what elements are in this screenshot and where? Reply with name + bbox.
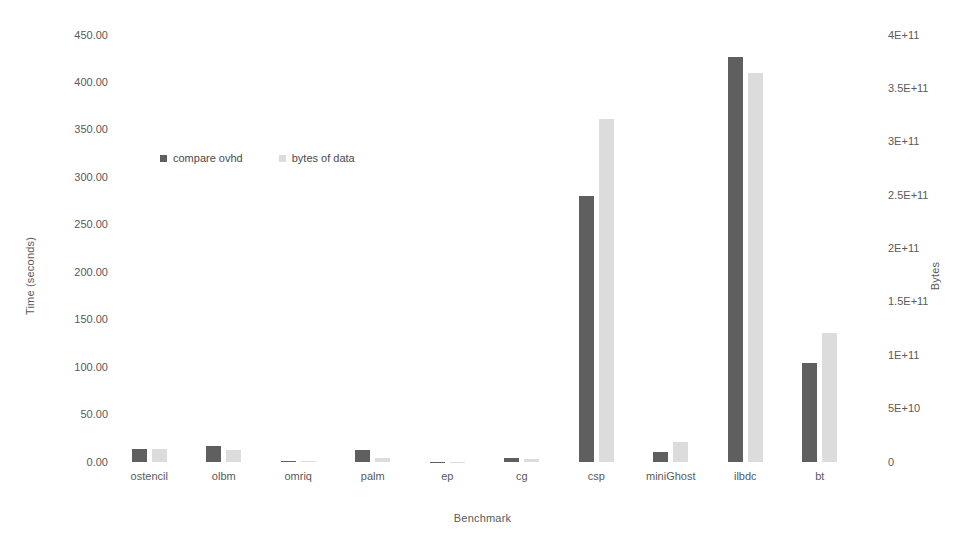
plot-area bbox=[112, 35, 857, 462]
bar-bytes-of-data[interactable] bbox=[226, 450, 241, 462]
bar-group bbox=[410, 35, 485, 462]
bar-bytes-of-data[interactable] bbox=[673, 442, 688, 462]
x-axis-categories: ostencilolbmomriqpalmepcgcspminiGhostilb… bbox=[112, 470, 857, 482]
x-axis-tick-label: olbm bbox=[187, 470, 262, 482]
y-axis-left-tick-label: 450.00 bbox=[74, 30, 108, 41]
bar-compare-ovhd[interactable] bbox=[132, 449, 147, 462]
y-axis-right-tick-label: 5E+10 bbox=[888, 403, 920, 414]
bar-compare-ovhd[interactable] bbox=[579, 196, 594, 462]
bar-compare-ovhd[interactable] bbox=[355, 450, 370, 462]
x-axis-tick-label: ep bbox=[410, 470, 485, 482]
bar-compare-ovhd[interactable] bbox=[281, 461, 296, 462]
bar-group bbox=[112, 35, 187, 462]
bar-group bbox=[485, 35, 560, 462]
y-axis-right-ticks: 05E+101E+111.5E+112E+112.5E+113E+113.5E+… bbox=[888, 0, 948, 552]
legend-swatch-icon bbox=[279, 155, 286, 162]
bar-bytes-of-data[interactable] bbox=[822, 333, 837, 462]
bar-chart: Time (seconds) Bytes Benchmark 0.0050.00… bbox=[0, 0, 965, 552]
y-axis-right-tick-label: 3.5E+11 bbox=[888, 83, 928, 94]
legend-item-label: bytes of data bbox=[292, 152, 355, 164]
legend-item-compare-ovhd[interactable]: compare ovhd bbox=[160, 152, 243, 164]
legend-item-label: compare ovhd bbox=[173, 152, 243, 164]
y-axis-left-tick-label: 400.00 bbox=[74, 77, 108, 88]
x-axis-tick-label: ostencil bbox=[112, 470, 187, 482]
y-axis-left-title: Time (seconds) bbox=[24, 216, 36, 336]
bar-group bbox=[634, 35, 709, 462]
bar-compare-ovhd[interactable] bbox=[206, 446, 221, 462]
y-axis-left-tick-label: 300.00 bbox=[74, 172, 108, 183]
x-axis-tick-label: ilbdc bbox=[708, 470, 783, 482]
bar-compare-ovhd[interactable] bbox=[802, 363, 817, 462]
y-axis-left-tick-label: 0.00 bbox=[87, 457, 108, 468]
bar-bytes-of-data[interactable] bbox=[301, 461, 316, 462]
bar-compare-ovhd[interactable] bbox=[504, 458, 519, 462]
bar-group bbox=[783, 35, 858, 462]
y-axis-right-tick-label: 3E+11 bbox=[888, 136, 919, 147]
y-axis-left-ticks: 0.0050.00100.00150.00200.00250.00300.003… bbox=[48, 0, 108, 552]
y-axis-left-tick-label: 350.00 bbox=[74, 124, 108, 135]
y-axis-left-tick-label: 150.00 bbox=[74, 314, 108, 325]
legend-item-bytes-of-data[interactable]: bytes of data bbox=[279, 152, 355, 164]
legend-swatch-icon bbox=[160, 155, 167, 162]
x-axis-title: Benchmark bbox=[0, 512, 965, 524]
bar-compare-ovhd[interactable] bbox=[728, 57, 743, 462]
bar-compare-ovhd[interactable] bbox=[653, 452, 668, 462]
x-axis-tick-label: palm bbox=[336, 470, 411, 482]
x-axis-tick-label: csp bbox=[559, 470, 634, 482]
bar-group bbox=[559, 35, 634, 462]
bar-bytes-of-data[interactable] bbox=[152, 449, 167, 462]
y-axis-left-tick-label: 200.00 bbox=[74, 267, 108, 278]
y-axis-left-tick-label: 50.00 bbox=[80, 409, 108, 420]
y-axis-left-tick-label: 100.00 bbox=[74, 362, 108, 373]
y-axis-right-tick-label: 1E+11 bbox=[888, 350, 919, 361]
y-axis-right-tick-label: 2.5E+11 bbox=[888, 190, 928, 201]
chart-legend: compare ovhd bytes of data bbox=[160, 152, 355, 164]
y-axis-right-tick-label: 2E+11 bbox=[888, 243, 919, 254]
bar-group bbox=[261, 35, 336, 462]
y-axis-right-tick-label: 4E+11 bbox=[888, 30, 919, 41]
y-axis-right-tick-label: 0 bbox=[888, 457, 894, 468]
bar-groups bbox=[112, 35, 857, 462]
bar-group bbox=[708, 35, 783, 462]
bar-group bbox=[336, 35, 411, 462]
x-axis-tick-label: miniGhost bbox=[634, 470, 709, 482]
y-axis-right-tick-label: 1.5E+11 bbox=[888, 296, 928, 307]
bar-bytes-of-data[interactable] bbox=[599, 119, 614, 462]
y-axis-left-tick-label: 250.00 bbox=[74, 219, 108, 230]
x-axis-tick-label: bt bbox=[783, 470, 858, 482]
bar-bytes-of-data[interactable] bbox=[748, 73, 763, 462]
bar-group bbox=[187, 35, 262, 462]
bar-bytes-of-data[interactable] bbox=[375, 458, 390, 462]
x-axis-tick-label: cg bbox=[485, 470, 560, 482]
x-axis-tick-label: omriq bbox=[261, 470, 336, 482]
bar-bytes-of-data[interactable] bbox=[524, 459, 539, 462]
